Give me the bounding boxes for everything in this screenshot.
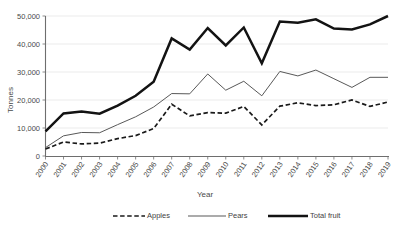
- x-tick-label: 2001: [51, 160, 68, 179]
- series-line-pears: [46, 70, 389, 148]
- x-tick-label: 2017: [340, 160, 357, 179]
- x-tick-label: 2000: [33, 160, 50, 179]
- x-tick-label: 2005: [124, 160, 141, 179]
- series-line-apples: [46, 100, 389, 149]
- line-chart: 010,00020,00030,00040,00050,000 20002001…: [0, 0, 398, 235]
- x-tick-label: 2012: [250, 160, 267, 179]
- x-tick-label: 2013: [268, 160, 285, 179]
- series-line-total-fruit: [46, 16, 389, 131]
- x-tick-label: 2003: [87, 160, 104, 179]
- x-tick-label: 2006: [142, 160, 159, 179]
- y-tick-label: 30,000: [17, 68, 40, 77]
- x-tick-label: 2010: [214, 160, 231, 179]
- y-axis-tick-labels: 010,00020,00030,00040,00050,000: [17, 12, 40, 161]
- legend-label-pears: Pears: [228, 211, 248, 220]
- x-tick-label: 2016: [322, 160, 339, 179]
- x-tick-label: 2009: [196, 160, 213, 179]
- chart-container: 010,00020,00030,00040,00050,000 20002001…: [0, 0, 398, 235]
- x-tick-label: 2014: [286, 160, 303, 179]
- x-tick-label: 2004: [105, 160, 122, 179]
- legend-label-total-fruit: Total fruit: [310, 211, 341, 220]
- gridlines: [46, 16, 389, 128]
- y-tick-label: 0: [36, 152, 40, 161]
- x-tick-label: 2002: [69, 160, 86, 179]
- x-tick-label: 2018: [358, 160, 375, 179]
- y-axis-title: Tonnes: [6, 87, 15, 113]
- chart-legend: ApplesPearsTotal fruit: [113, 211, 341, 220]
- x-tick-label: 2008: [178, 160, 195, 179]
- x-axis-tick-labels: 2000200120022003200420052006200720082009…: [33, 160, 392, 179]
- x-tick-label: 2007: [160, 160, 177, 179]
- x-tick-label: 2019: [376, 160, 393, 179]
- x-axis-title: Year: [197, 190, 214, 199]
- y-tick-label: 40,000: [17, 40, 40, 49]
- y-tick-label: 20,000: [17, 96, 40, 105]
- x-tick-label: 2015: [304, 160, 321, 179]
- y-tick-label: 10,000: [17, 124, 40, 133]
- x-tick-label: 2011: [232, 160, 249, 178]
- legend-label-apples: Apples: [147, 211, 170, 220]
- y-tick-label: 50,000: [17, 12, 40, 21]
